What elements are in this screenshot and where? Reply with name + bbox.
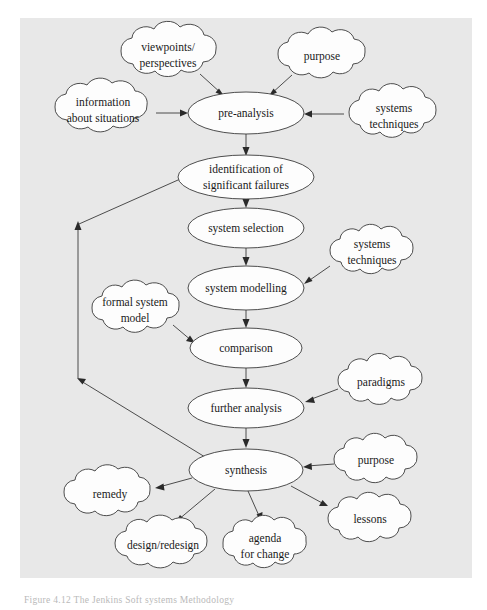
cloud-remedy-label: remedy: [93, 488, 128, 501]
cloud-systems-techniques-mid-label-line1: systems: [354, 238, 391, 251]
cloud-agenda-for-change: agenda for change: [223, 515, 306, 567]
node-system-modelling: system modelling: [188, 266, 304, 310]
node-comparison: comparison: [190, 328, 302, 368]
edge-systems-techniques-mid-to-system-modelling: [304, 266, 330, 284]
cloud-systems-techniques-top: systems techniques: [349, 84, 436, 138]
cloud-purpose-bottom-label: purpose: [358, 454, 394, 467]
cloud-systems-techniques-top-label-line1: systems: [376, 102, 413, 115]
cloud-viewpoints-label-line2: perspectives: [140, 57, 197, 70]
cloud-viewpoints-label-line1: viewpoints/: [141, 41, 195, 54]
cloud-paradigms: paradigms: [338, 353, 422, 404]
edge-synthesis-to-lessons: [291, 486, 328, 506]
cloud-remedy: remedy: [64, 465, 150, 516]
node-pre-analysis-label: pre-analysis: [218, 107, 274, 120]
edge-synthesis-to-feedback-loop: [77, 378, 205, 457]
cloud-information-label-line1: information: [76, 96, 131, 108]
edge-information-to-pre-analysis: [156, 110, 188, 117]
node-identification-label-line1: identification of: [209, 163, 283, 175]
edge-comparison-to-further-analysis: [243, 368, 250, 388]
edge-systems-techniques-top-to-pre-analysis: [304, 111, 344, 118]
cloud-paradigms-label: paradigms: [357, 376, 405, 389]
figure-page: viewpoints/ perspectives purpose informa…: [0, 0, 487, 610]
cloud-purpose-bottom: purpose: [334, 433, 417, 482]
cloud-information: information about situations: [55, 78, 147, 132]
edge-identification-to-system-selection: [243, 199, 250, 208]
cloud-purpose-top-label: purpose: [304, 50, 340, 63]
cloud-formal-system-model: formal system model: [92, 280, 179, 332]
node-synthesis-label: synthesis: [225, 464, 268, 477]
cloud-systems-techniques-top-label-line2: techniques: [369, 118, 419, 131]
cloud-lessons-label: lessons: [353, 513, 387, 525]
node-further-analysis-label: further analysis: [210, 402, 282, 415]
edge-system-modelling-to-comparison: [243, 310, 250, 328]
cloud-systems-techniques-mid: systems techniques: [330, 224, 413, 273]
node-system-selection: system selection: [188, 208, 304, 248]
edge-synthesis-to-remedy: [155, 478, 192, 491]
feedback-loop-vertical: [75, 221, 82, 378]
cloud-design-redesign: design/redesign: [115, 515, 207, 568]
edge-feedback-loop-to-identification: [79, 172, 191, 224]
cloud-agenda-label-line2: for change: [241, 548, 290, 561]
cloud-formal-system-model-label-line1: formal system: [102, 296, 168, 309]
node-comparison-label: comparison: [219, 342, 273, 355]
edge-paradigms-to-further-analysis: [305, 389, 338, 403]
cloud-systems-techniques-mid-label-line2: techniques: [347, 254, 397, 267]
edge-further-analysis-to-synthesis: [243, 428, 250, 448]
edge-viewpoints-to-pre-analysis: [200, 74, 224, 96]
cloud-design-redesign-label: design/redesign: [127, 539, 199, 552]
soft-systems-methodology-diagram: viewpoints/ perspectives purpose informa…: [0, 0, 487, 610]
edge-purpose-top-to-pre-analysis: [269, 75, 292, 96]
figure-caption: Figure 4.12 The Jenkins Soft systems Met…: [24, 595, 464, 605]
cloud-information-label-line2: about situations: [67, 112, 140, 124]
cloud-lessons: lessons: [328, 492, 411, 541]
node-system-selection-label: system selection: [208, 222, 284, 235]
cloud-agenda-label-line1: agenda: [249, 532, 282, 545]
cloud-purpose-top: purpose: [278, 27, 365, 78]
node-further-analysis: further analysis: [188, 388, 304, 428]
edge-system-selection-to-system-modelling: [243, 248, 250, 266]
node-identification-label-line2: significant failures: [203, 179, 289, 192]
node-identification: identification of significant failures: [178, 155, 314, 199]
cloud-viewpoints: viewpoints/ perspectives: [121, 21, 216, 76]
node-system-modelling-label: system modelling: [205, 282, 287, 295]
node-pre-analysis: pre-analysis: [188, 92, 304, 134]
edge-formal-system-model-to-comparison: [173, 325, 195, 343]
node-synthesis: synthesis: [189, 449, 303, 491]
edge-pre-analysis-to-identification: [243, 134, 250, 156]
cloud-formal-system-model-label-line2: model: [121, 312, 150, 324]
edge-purpose-bottom-to-synthesis: [303, 463, 334, 470]
